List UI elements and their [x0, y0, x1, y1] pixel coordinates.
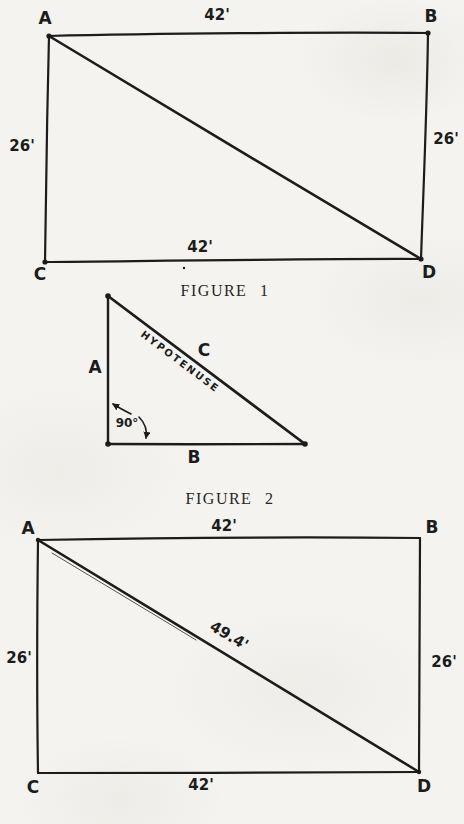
figure1-left-side	[45, 36, 49, 262]
angle-arrow-to-horizontal	[139, 417, 146, 438]
figure1-right-dimension: 26'	[433, 132, 458, 147]
figure3-left-dimension: 26'	[6, 651, 31, 666]
figure1-top-side	[49, 33, 428, 36]
figure1-rectangle	[45, 33, 428, 262]
figure3-right-dimension: 26'	[431, 655, 456, 670]
figure2-caption: FIGURE 2	[186, 490, 275, 508]
figure1-corner-b-label: B	[425, 8, 438, 25]
figure1-corner-c-label: C	[34, 266, 46, 283]
figures-drawing	[0, 0, 464, 824]
vertex-dot	[105, 441, 111, 447]
figure1-top-dimension: 42'	[204, 8, 229, 23]
figure2-side-b-label: B	[188, 449, 201, 466]
vertex-dot	[417, 770, 421, 774]
figure1-bottom-dimension: 42'	[187, 240, 212, 255]
vertex-dot	[105, 293, 111, 299]
figure3-corner-d-label: D	[417, 778, 431, 795]
figure1-caption: FIGURE 1	[181, 282, 270, 300]
figure3-corner-a-label: A	[21, 520, 34, 537]
scanned-page: A 42' B 26' 26' 42' C D FIGURE 1 A C HYP…	[0, 0, 464, 824]
figure1-right-side	[421, 33, 428, 259]
vertex-dot	[36, 538, 40, 542]
figure2-right-angle-label: 90°	[116, 417, 139, 429]
figure3-corner-b-label: B	[426, 519, 439, 536]
figure3-left-side	[37, 540, 38, 773]
figure1-diagonal	[49, 36, 421, 259]
figure3-diagonal	[38, 540, 419, 772]
vertex-dot	[302, 441, 308, 447]
figure3-bottom-side	[38, 772, 419, 773]
figure1-bottom-side	[45, 259, 421, 262]
figure3-rectangle	[37, 538, 420, 773]
figure2-side-a-label: A	[88, 359, 101, 376]
figure3-corner-c-label: C	[27, 779, 39, 796]
figure3-right-side	[419, 538, 420, 772]
figure2-side-c-label: C	[198, 342, 210, 359]
figure3-bottom-dimension: 42'	[188, 778, 213, 793]
vertex-dot	[425, 30, 430, 35]
figure3-diagonal-sketch-line	[52, 553, 196, 640]
angle-arrow-to-vertical	[113, 404, 131, 414]
figure3-top-side	[38, 538, 420, 540]
ink-speck	[183, 267, 185, 269]
figure3-top-dimension: 42'	[211, 519, 236, 534]
figure1-corner-a-label: A	[38, 10, 51, 27]
figure1-corner-d-label: D	[422, 264, 436, 281]
vertex-dot	[46, 33, 51, 38]
figure1-left-dimension: 26'	[9, 139, 34, 154]
